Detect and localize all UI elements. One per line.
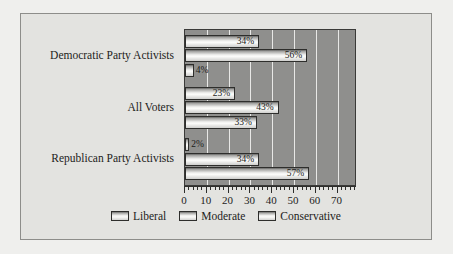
legend-swatch-icon — [179, 211, 197, 221]
x-tick-minor — [188, 186, 189, 190]
x-tick-minor — [328, 186, 329, 190]
category-labels: Democratic Party ActivistsAll VotersRepu… — [21, 29, 179, 186]
x-tick-minor — [201, 186, 202, 190]
bar-row: 57% — [185, 167, 355, 180]
bar-value-label: 2% — [191, 138, 204, 151]
bar-moderate-1[interactable]: 43% — [185, 101, 279, 114]
x-tick-minor — [310, 186, 311, 190]
x-tick-label: 20 — [222, 194, 233, 206]
bar-moderate-2[interactable]: 34% — [185, 153, 259, 166]
legend-label: Conservative — [280, 210, 341, 222]
bar-conservative-0[interactable]: 4% — [185, 64, 194, 77]
x-tick-minor — [236, 186, 237, 190]
bar-liberal-2[interactable]: 2% — [185, 138, 189, 151]
bar-row: 33% — [185, 116, 355, 129]
bar-row: 4% — [185, 64, 355, 77]
x-tick-minor — [345, 186, 346, 190]
bar-value-label: 34% — [237, 153, 254, 166]
category-label: All Voters — [127, 101, 174, 113]
x-tick-major — [271, 186, 272, 193]
bar-moderate-0[interactable]: 56% — [185, 49, 307, 62]
bar-row: 34% — [185, 35, 355, 48]
x-tick-minor — [323, 186, 324, 190]
x-tick-minor — [289, 186, 290, 190]
bar-conservative-2[interactable]: 57% — [185, 167, 309, 180]
x-tick-minor — [276, 186, 277, 190]
bar-conservative-1[interactable]: 33% — [185, 116, 257, 129]
x-tick-minor — [284, 186, 285, 190]
x-tick-minor — [302, 186, 303, 190]
x-tick-minor — [245, 186, 246, 190]
x-tick-label: 60 — [309, 194, 320, 206]
x-tick-minor — [219, 186, 220, 190]
chart-legend: LiberalModerateConservative — [21, 210, 431, 222]
x-tick-minor — [241, 186, 242, 190]
legend-item-conservative[interactable]: Conservative — [258, 210, 341, 222]
bar-value-label: 43% — [256, 101, 273, 114]
chart-figure: 34%56%4%23%43%33%2%34%57% 01020304050607… — [20, 13, 432, 240]
x-tick-minor — [262, 186, 263, 190]
x-tick-label: 70 — [331, 194, 342, 206]
x-tick-label: 0 — [181, 194, 187, 206]
x-tick-major — [228, 186, 229, 193]
x-tick-minor — [332, 186, 333, 190]
x-tick-minor — [350, 186, 351, 190]
bar-liberal-0[interactable]: 34% — [185, 35, 259, 48]
category-label: Republican Party Activists — [51, 152, 174, 164]
x-tick-minor — [258, 186, 259, 190]
x-tick-label: 40 — [266, 194, 277, 206]
bar-liberal-1[interactable]: 23% — [185, 87, 235, 100]
bar-value-label: 56% — [285, 49, 302, 62]
x-tick-major — [337, 186, 338, 193]
x-axis-tick-labels: 010203040506070 — [184, 194, 356, 208]
x-tick-minor — [215, 186, 216, 190]
x-tick-minor — [319, 186, 320, 190]
x-tick-minor — [193, 186, 194, 190]
bar-row: 34% — [185, 153, 355, 166]
x-tick-minor — [306, 186, 307, 190]
x-tick-minor — [267, 186, 268, 190]
x-tick-minor — [354, 186, 355, 190]
bar-value-label: 23% — [213, 87, 230, 100]
bar-row: 56% — [185, 49, 355, 62]
bar-value-label: 4% — [196, 64, 209, 77]
x-tick-minor — [297, 186, 298, 190]
bar-row: 2% — [185, 138, 355, 151]
legend-item-liberal[interactable]: Liberal — [111, 210, 166, 222]
x-tick-minor — [223, 186, 224, 190]
legend-label: Moderate — [201, 210, 245, 222]
x-tick-major — [315, 186, 316, 193]
x-tick-minor — [280, 186, 281, 190]
bar-value-label: 57% — [287, 167, 304, 180]
legend-item-moderate[interactable]: Moderate — [179, 210, 245, 222]
x-tick-major — [249, 186, 250, 193]
x-tick-label: 30 — [244, 194, 255, 206]
x-tick-minor — [254, 186, 255, 190]
x-tick-minor — [232, 186, 233, 190]
plot-area: 34%56%4%23%43%33%2%34%57% — [184, 29, 356, 186]
bar-row: 23% — [185, 87, 355, 100]
bar-row: 43% — [185, 101, 355, 114]
bar-value-label: 33% — [235, 116, 252, 129]
x-tick-minor — [341, 186, 342, 190]
x-tick-major — [184, 186, 185, 193]
x-tick-minor — [210, 186, 211, 190]
x-tick-label: 50 — [287, 194, 298, 206]
category-label: Democratic Party Activists — [50, 49, 174, 61]
x-tick-minor — [197, 186, 198, 190]
bar-value-label: 34% — [237, 35, 254, 48]
legend-label: Liberal — [133, 210, 166, 222]
legend-swatch-icon — [258, 211, 276, 221]
x-tick-major — [206, 186, 207, 193]
x-tick-label: 10 — [200, 194, 211, 206]
legend-swatch-icon — [111, 211, 129, 221]
x-axis — [184, 186, 356, 193]
x-tick-major — [293, 186, 294, 193]
